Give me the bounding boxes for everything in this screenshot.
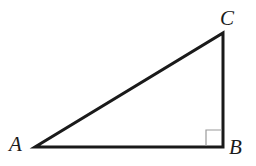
right-angle-marker bbox=[206, 130, 222, 146]
vertex-label-b: B bbox=[229, 137, 242, 158]
triangle-path bbox=[35, 33, 223, 147]
triangle-figure: A B C bbox=[0, 0, 256, 166]
vertex-label-c: C bbox=[220, 8, 234, 29]
right-angle-square-icon bbox=[206, 130, 222, 146]
vertex-label-a: A bbox=[9, 134, 22, 155]
triangle-drawing bbox=[0, 0, 256, 166]
triangle-outline bbox=[35, 33, 223, 147]
